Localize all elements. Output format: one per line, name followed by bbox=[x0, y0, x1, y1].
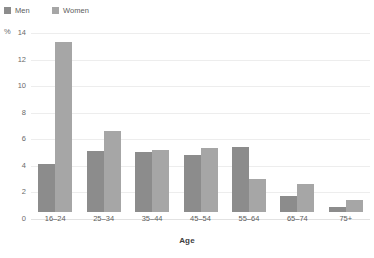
bar-men[interactable] bbox=[232, 147, 249, 212]
x-axis-tick-label: 65–74 bbox=[273, 214, 321, 223]
chart-plot-area: % 02468101214 bbox=[0, 26, 374, 221]
bar-men[interactable] bbox=[87, 151, 104, 212]
chart-legend: Men Women bbox=[4, 3, 111, 17]
y-axis-tick-label: 10 bbox=[0, 82, 26, 90]
chart-bars-layer bbox=[31, 26, 370, 212]
x-axis-ticks: 16–2425–3435–4445–5455–6465–7475+ bbox=[31, 214, 370, 228]
bar-group bbox=[280, 26, 314, 212]
bar-group bbox=[38, 26, 72, 212]
legend-swatch-men bbox=[4, 7, 11, 14]
y-axis-tick-label: 8 bbox=[0, 109, 26, 117]
bar-women[interactable] bbox=[201, 148, 218, 212]
bar-men[interactable] bbox=[135, 152, 152, 212]
y-axis-tick-label: 4 bbox=[0, 162, 26, 170]
y-axis-tick-label: 6 bbox=[0, 135, 26, 143]
x-axis-tick-label: 45–54 bbox=[176, 214, 224, 223]
legend-label-men: Men bbox=[15, 6, 30, 15]
y-axis-tick-label: 12 bbox=[0, 56, 26, 64]
x-axis-tick-label: 35–44 bbox=[128, 214, 176, 223]
x-axis-title: Age bbox=[0, 236, 374, 245]
x-axis-tick-label: 25–34 bbox=[79, 214, 127, 223]
x-axis-tick-label: 16–24 bbox=[31, 214, 79, 223]
bar-women[interactable] bbox=[104, 131, 121, 212]
y-axis-tick-label: 0 bbox=[0, 215, 26, 223]
bar-women[interactable] bbox=[152, 150, 169, 212]
y-axis-tick-label: 2 bbox=[0, 188, 26, 196]
bar-group bbox=[329, 26, 363, 212]
bar-women[interactable] bbox=[55, 42, 72, 212]
bar-group bbox=[87, 26, 121, 212]
x-axis-tick-label: 55–64 bbox=[225, 214, 273, 223]
bar-group bbox=[184, 26, 218, 212]
legend-swatch-women bbox=[52, 7, 59, 14]
bar-men[interactable] bbox=[38, 164, 55, 212]
bar-men[interactable] bbox=[184, 155, 201, 212]
bar-women[interactable] bbox=[346, 200, 363, 212]
legend-item-men[interactable]: Men bbox=[4, 6, 30, 15]
x-axis-tick-label: 75+ bbox=[322, 214, 370, 223]
bar-group bbox=[232, 26, 266, 212]
bar-women[interactable] bbox=[249, 179, 266, 212]
legend-label-women: Women bbox=[63, 6, 89, 15]
bar-women[interactable] bbox=[297, 184, 314, 212]
bar-men[interactable] bbox=[329, 207, 346, 212]
y-axis-tick-label: 14 bbox=[0, 29, 26, 37]
bar-men[interactable] bbox=[280, 196, 297, 212]
bar-group bbox=[135, 26, 169, 212]
legend-item-women[interactable]: Women bbox=[52, 6, 89, 15]
